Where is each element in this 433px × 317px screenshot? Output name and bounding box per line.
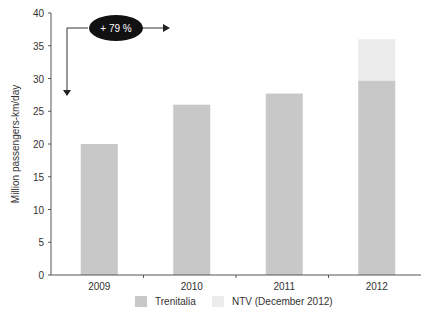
y-axis-label: Million passengers-km/day xyxy=(10,85,21,203)
growth-annotation: + 79 % xyxy=(63,15,170,96)
arrow-right-icon xyxy=(163,24,170,32)
x-tick-label: 2009 xyxy=(88,281,111,292)
bar-segment xyxy=(173,105,210,275)
bar-segment xyxy=(358,80,395,275)
y-tick-label: 5 xyxy=(38,237,44,248)
y-tick-label: 15 xyxy=(33,172,45,183)
bar-segment xyxy=(81,144,118,275)
arrow-down-icon xyxy=(63,90,71,96)
x-tick-label: 2011 xyxy=(273,281,295,292)
y-tick-label: 25 xyxy=(33,106,45,117)
legend: Trenitalia NTV (December 2012) xyxy=(0,296,433,312)
x-tick-label: 2012 xyxy=(366,281,389,292)
x-tick-label: 2010 xyxy=(181,281,204,292)
y-axis-ticks: 0510152025303540 xyxy=(33,8,51,281)
legend-label: NTV (December 2012) xyxy=(232,296,333,307)
y-tick-label: 0 xyxy=(38,270,44,281)
legend-label: Trenitalia xyxy=(155,296,196,307)
bar-segment xyxy=(266,94,303,275)
y-tick-label: 10 xyxy=(33,205,45,216)
bar-segment xyxy=(358,39,395,80)
x-axis-labels: 2009201020112012 xyxy=(88,275,388,292)
bars xyxy=(81,39,396,275)
y-tick-label: 20 xyxy=(33,139,45,150)
y-tick-label: 40 xyxy=(33,8,45,19)
y-tick-label: 30 xyxy=(33,74,45,85)
legend-item-trenitalia: Trenitalia xyxy=(135,296,196,307)
y-tick-label: 35 xyxy=(33,41,45,52)
legend-swatch xyxy=(212,296,224,307)
legend-item-ntv: NTV (December 2012) xyxy=(212,296,333,307)
bar-chart: 0510152025303540 2009201020112012 Millio… xyxy=(0,0,433,317)
legend-swatch xyxy=(135,296,147,307)
growth-label: + 79 % xyxy=(100,23,132,34)
